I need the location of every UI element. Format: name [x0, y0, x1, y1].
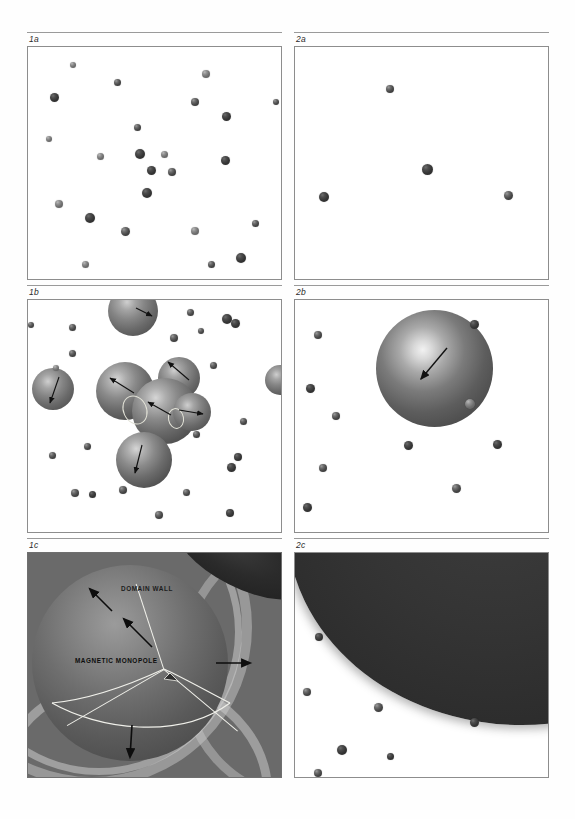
panel-2c: 2c [294, 538, 549, 778]
sphere [303, 688, 311, 696]
sphere [134, 124, 141, 131]
panel-label-1c: 1c [29, 540, 38, 550]
panel-rule-1b [27, 285, 282, 286]
sphere [470, 718, 479, 727]
sphere [191, 227, 199, 235]
sphere [70, 62, 76, 68]
giant-sphere-edge [294, 552, 549, 725]
panel-label-1b: 1b [29, 287, 39, 297]
sphere [208, 261, 215, 268]
sphere [273, 99, 279, 105]
sphere [222, 112, 231, 121]
sphere [168, 168, 176, 176]
domain-wall-caption: DOMAIN WALL [121, 585, 173, 592]
sphere [252, 220, 259, 227]
panel-label-2b: 2b [296, 287, 306, 297]
panel-frame-1c: DOMAIN WALL MAGNETIC MONOPOLE [27, 552, 282, 778]
sphere [46, 136, 52, 142]
sphere [114, 79, 121, 86]
sphere [387, 753, 394, 760]
sphere [374, 703, 383, 712]
sphere [315, 633, 323, 641]
sphere [161, 151, 168, 158]
panel-label-2c: 2c [296, 540, 305, 550]
motion-arrows-1b [28, 300, 281, 532]
sphere [236, 253, 246, 263]
sphere [85, 213, 95, 223]
sphere [82, 261, 89, 268]
panel-label-1a: 1a [29, 34, 39, 44]
panel-1a: 1a [27, 32, 282, 280]
sphere [202, 70, 210, 78]
sphere [50, 93, 59, 102]
magnetic-monopole-caption: MAGNETIC MONOPOLE [75, 657, 158, 664]
sphere [147, 166, 156, 175]
panel-rule-2a [294, 32, 549, 33]
panel-rule-2c [294, 538, 549, 539]
sphere [121, 227, 130, 236]
sphere [142, 188, 152, 198]
sphere [55, 200, 63, 208]
sphere [221, 156, 230, 165]
sphere [191, 98, 199, 106]
sphere [386, 85, 394, 93]
motion-arrow-2b [295, 300, 548, 532]
sphere [504, 191, 513, 200]
panel-frame-2c [294, 552, 549, 778]
panel-frame-2b [294, 299, 549, 533]
panel-label-2a: 2a [296, 34, 306, 44]
figure-sheet: 1a [0, 0, 575, 819]
panel-2b: 2b [294, 285, 549, 533]
panel-frame-1a [27, 46, 282, 280]
panel-1c: 1c [27, 538, 282, 778]
sphere [319, 192, 329, 202]
monopole-artwork: DOMAIN WALL MAGNETIC MONOPOLE [28, 553, 281, 777]
panel-frame-2a [294, 46, 549, 280]
sphere [135, 149, 145, 159]
panel-rule-1a [27, 32, 282, 33]
panel-rule-1c [27, 538, 282, 539]
panel-1b: 1b [27, 285, 282, 533]
panel-2a: 2a [294, 32, 549, 280]
panel-rule-2b [294, 285, 549, 286]
sphere [337, 745, 347, 755]
panel-frame-1b [27, 299, 282, 533]
sphere [314, 769, 322, 777]
sphere [422, 164, 433, 175]
sphere [97, 153, 104, 160]
